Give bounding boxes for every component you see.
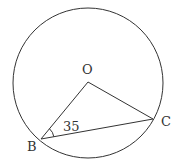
- label-c: C: [161, 114, 171, 129]
- label-o: O: [82, 62, 93, 77]
- angle-arc-b: [50, 129, 54, 137]
- diagram-svg: O B C 35: [0, 0, 179, 164]
- angle-value-label: 35: [63, 119, 80, 134]
- label-b: B: [27, 139, 37, 154]
- segment-oc: [88, 82, 153, 119]
- segment-bc: [41, 119, 153, 139]
- circle: [13, 8, 163, 158]
- circle-diagram: O B C 35: [0, 0, 179, 164]
